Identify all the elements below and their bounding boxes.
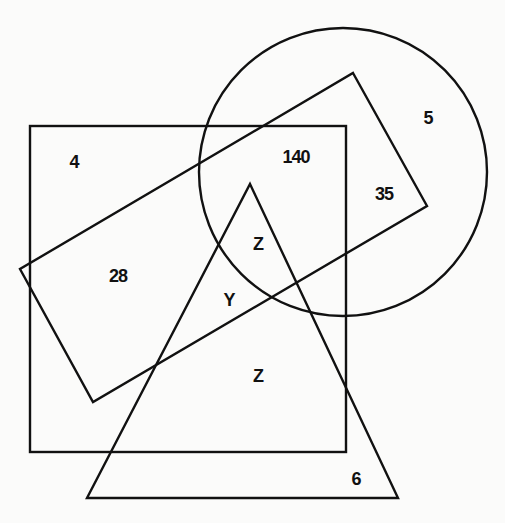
label-circle-rect: 35 xyxy=(375,184,394,204)
label-square-only: 4 xyxy=(69,152,79,172)
venn-diagram: 4 140 5 35 28 Z Y Z 6 xyxy=(0,0,505,523)
label-square-circle-rect: 140 xyxy=(282,147,310,167)
region-labels: 4 140 5 35 28 Z Y Z 6 xyxy=(69,108,433,489)
diagram-shapes: 4 140 5 35 28 Z Y Z 6 xyxy=(0,0,505,523)
label-square-triangle: Z xyxy=(253,366,264,386)
label-square-rect-triangle: Y xyxy=(223,290,235,310)
label-square-rect: 28 xyxy=(109,266,128,286)
label-triangle-only: 6 xyxy=(351,469,361,489)
circle-shape xyxy=(199,28,487,316)
label-circle-only: 5 xyxy=(423,108,433,128)
label-all-four: Z xyxy=(253,234,264,254)
